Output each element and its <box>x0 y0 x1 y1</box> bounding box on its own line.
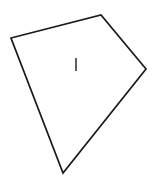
figure-canvas <box>0 0 153 177</box>
geometry-figure <box>0 0 153 177</box>
quadrilateral-shape <box>11 15 146 173</box>
